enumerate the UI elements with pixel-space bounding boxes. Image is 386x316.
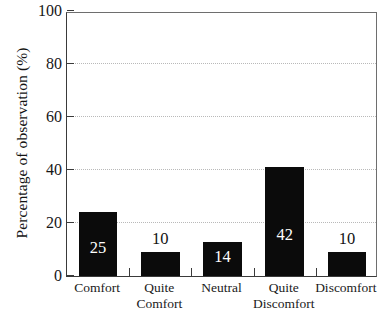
- bar: 42: [265, 167, 304, 276]
- bar-value-label: 10: [328, 231, 367, 248]
- bar-value-label: 14: [203, 249, 242, 266]
- bar-value-label: 25: [79, 240, 118, 257]
- x-axis-label-line1: Quite: [269, 280, 299, 295]
- x-axis-label-line2: Comfort: [117, 296, 202, 312]
- bar-value-label: 10: [141, 231, 180, 248]
- y-tick: 0: [67, 275, 74, 276]
- bar-chart: Percentage of observation (%) 0204060801…: [0, 0, 386, 316]
- y-tick: 40: [67, 169, 74, 170]
- x-axis-label: Discomfort: [304, 280, 386, 296]
- y-tick: 60: [67, 116, 74, 117]
- bar-value-label: 42: [265, 227, 304, 244]
- x-axis-label-line1: Discomfort: [315, 280, 377, 295]
- y-tick: 100: [67, 10, 74, 11]
- y-tick-label: 60: [46, 108, 62, 126]
- x-axis-label-line2: Discomfort: [241, 296, 326, 312]
- y-tick-label: 100: [38, 2, 62, 20]
- x-axis-labels: ComfortQuiteComfortNeutralQuiteDiscomfor…: [66, 280, 386, 316]
- plot-area: 020406080100 2510144210: [66, 12, 377, 277]
- bar: [328, 252, 367, 276]
- y-axis-title: Percentage of observation (%): [13, 3, 31, 283]
- x-tick: [129, 268, 130, 276]
- y-tick: 80: [67, 63, 74, 64]
- y-tick: 20: [67, 222, 74, 223]
- x-tick: [316, 268, 317, 276]
- x-axis-label-line1: Quite: [144, 280, 174, 295]
- gridline: [67, 63, 376, 64]
- x-tick: [191, 268, 192, 276]
- gridline: [67, 116, 376, 117]
- y-tick-label: 20: [46, 214, 62, 232]
- gridline: [67, 169, 376, 170]
- x-tick: [254, 268, 255, 276]
- x-axis-label-line1: Neutral: [201, 280, 241, 295]
- y-tick-label: 40: [46, 161, 62, 179]
- bar: 14: [203, 242, 242, 276]
- y-tick-label: 80: [46, 55, 62, 73]
- x-axis-label-line1: Comfort: [74, 280, 120, 295]
- bar: 25: [79, 212, 118, 276]
- bar: [141, 252, 180, 276]
